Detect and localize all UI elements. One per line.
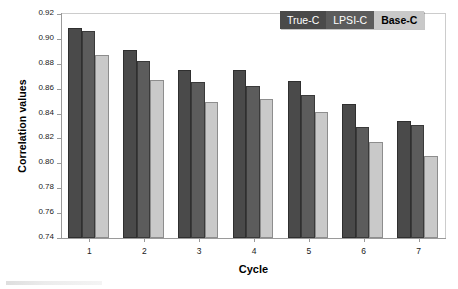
x-tick-mark <box>89 238 90 242</box>
y-tick-label: 0.84 <box>38 108 54 117</box>
y-tick-label: 0.76 <box>38 207 54 216</box>
x-tick-label: 6 <box>352 246 376 256</box>
y-tick-mark <box>57 138 61 139</box>
y-tick-label: 0.74 <box>38 232 54 241</box>
y-tick-label: 0.82 <box>38 132 54 141</box>
y-tick-mark <box>57 188 61 189</box>
bar-base-c-cycle-2 <box>150 80 164 238</box>
x-tick-label: 5 <box>297 246 321 256</box>
bar-true-c-cycle-2 <box>123 50 137 238</box>
bar-base-c-cycle-4 <box>260 99 274 238</box>
y-tick-label: 0.90 <box>38 33 54 42</box>
bar-true-c-cycle-1 <box>68 28 82 238</box>
y-tick-label: 0.80 <box>38 157 54 166</box>
y-tick-mark <box>57 213 61 214</box>
bar-chart-figure: Correlation values 0.920.900.880.860.840… <box>0 0 458 289</box>
x-tick-mark <box>309 238 310 242</box>
bar-base-c-cycle-7 <box>424 156 438 238</box>
x-tick-label: 1 <box>77 246 101 256</box>
y-axis-title: Correlation values <box>16 46 28 206</box>
y-tick-mark <box>57 14 61 15</box>
scan-artifact <box>6 281 102 285</box>
bar-base-c-cycle-1 <box>95 55 109 238</box>
legend-item-lpsi-c: LPSI-C <box>326 11 374 29</box>
bar-true-c-cycle-6 <box>342 104 356 238</box>
x-tick-label: 2 <box>132 246 156 256</box>
bar-lpsi-c-cycle-2 <box>137 61 151 238</box>
x-tick-mark <box>199 238 200 242</box>
y-tick-label: 0.88 <box>38 58 54 67</box>
bar-lpsi-c-cycle-1 <box>82 31 96 238</box>
bar-true-c-cycle-5 <box>288 81 302 238</box>
x-tick-label: 4 <box>242 246 266 256</box>
y-tick-label: 0.92 <box>38 8 54 17</box>
bar-lpsi-c-cycle-4 <box>246 86 260 238</box>
bar-lpsi-c-cycle-5 <box>301 95 315 238</box>
x-tick-label: 3 <box>187 246 211 256</box>
bar-lpsi-c-cycle-7 <box>411 125 425 238</box>
y-tick-label: 0.86 <box>38 83 54 92</box>
x-tick-mark <box>254 238 255 242</box>
bar-base-c-cycle-5 <box>315 112 329 238</box>
y-tick-mark <box>57 238 61 239</box>
y-tick-mark <box>57 114 61 115</box>
x-tick-mark <box>364 238 365 242</box>
chart-legend: True-CLPSI-CBase-C <box>280 11 424 29</box>
y-tick-mark <box>57 39 61 40</box>
legend-item-base-c: Base-C <box>374 11 424 29</box>
legend-item-true-c: True-C <box>280 11 326 29</box>
y-tick-mark <box>57 89 61 90</box>
bar-true-c-cycle-3 <box>178 70 192 238</box>
bar-base-c-cycle-3 <box>205 102 219 238</box>
x-tick-mark <box>144 238 145 242</box>
bar-lpsi-c-cycle-6 <box>356 127 370 238</box>
bar-true-c-cycle-7 <box>397 121 411 238</box>
bar-true-c-cycle-4 <box>233 70 247 238</box>
y-tick-mark <box>57 163 61 164</box>
x-tick-mark <box>419 238 420 242</box>
x-axis-title: Cycle <box>61 263 446 275</box>
bar-base-c-cycle-6 <box>369 142 383 238</box>
bar-lpsi-c-cycle-3 <box>191 82 205 238</box>
x-tick-label: 7 <box>407 246 431 256</box>
y-tick-label: 0.78 <box>38 182 54 191</box>
y-tick-mark <box>57 64 61 65</box>
